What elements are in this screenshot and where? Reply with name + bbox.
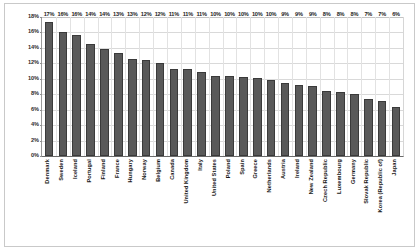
x-axis-label-slot: United Kingdom xyxy=(180,159,194,251)
bar-value-label: 9% xyxy=(295,12,303,18)
y-axis-tick-label: 16% xyxy=(7,30,39,36)
x-axis-label-slot: Greece xyxy=(249,159,263,251)
x-axis-label-slot: France xyxy=(110,159,124,251)
bar[interactable]: 17% xyxy=(45,22,54,156)
x-axis-category-label: Luxembourg xyxy=(337,159,343,194)
bar[interactable]: 11% xyxy=(183,69,192,156)
bar[interactable]: 7% xyxy=(364,99,373,156)
bar-value-label: 11% xyxy=(183,12,193,18)
bar[interactable]: 10% xyxy=(253,78,262,156)
bar-value-label: 10% xyxy=(266,12,277,18)
y-axis-tick-label: 14% xyxy=(7,45,39,51)
x-axis-category-label: New Zealand xyxy=(309,159,315,194)
bar[interactable]: 8% xyxy=(350,94,359,156)
bar[interactable]: 10% xyxy=(225,76,234,156)
bar-slot: 8% xyxy=(320,17,334,156)
bar[interactable]: 10% xyxy=(239,77,248,156)
bar[interactable]: 10% xyxy=(211,76,220,156)
x-axis-label-slot: Finland xyxy=(97,159,111,251)
bar-value-label: 9% xyxy=(309,12,317,18)
x-axis-label-slot: United States xyxy=(208,159,222,251)
x-axis-category-label: Slovak Republic xyxy=(364,159,370,204)
x-axis-label-slot: Sweden xyxy=(55,159,69,251)
bar-value-label: 16% xyxy=(58,12,69,18)
bar[interactable]: 16% xyxy=(72,35,81,156)
bar[interactable]: 14% xyxy=(100,49,109,156)
x-axis-category-label: Poland xyxy=(226,159,232,178)
bar-slot: 12% xyxy=(139,17,153,156)
chart-frame: 18%16%14%12%10%8%6%4%2%0% 17%16%16%14%14… xyxy=(4,3,415,247)
bar-value-label: 12% xyxy=(141,12,152,18)
x-axis-category-label: Denmark xyxy=(45,159,51,184)
x-axis-label-slot: Portugal xyxy=(83,159,97,251)
x-axis-label-slot: Belgium xyxy=(152,159,166,251)
bar-value-label: 16% xyxy=(71,12,82,18)
x-axis-category-label: France xyxy=(115,159,121,178)
bar-slot: 11% xyxy=(167,17,181,156)
x-axis-category-label: Spain xyxy=(240,159,246,175)
bar[interactable]: 9% xyxy=(281,83,290,156)
bar[interactable]: 16% xyxy=(59,32,68,156)
y-axis-tick-label: 18% xyxy=(7,14,39,20)
bar[interactable]: 13% xyxy=(128,59,137,156)
bar-slot: 6% xyxy=(389,17,403,156)
bar[interactable]: 12% xyxy=(156,63,165,156)
x-axis-label-slot: New Zealand xyxy=(305,159,319,251)
x-axis-category-label: Austria xyxy=(281,159,287,179)
bar-slot: 16% xyxy=(56,17,70,156)
bar-value-label: 10% xyxy=(210,12,221,18)
x-axis-category-label: Hungary xyxy=(128,159,134,182)
bar-value-label: 8% xyxy=(323,12,331,18)
bar-slot: 10% xyxy=(264,17,278,156)
x-axis-category-label: United States xyxy=(212,159,218,196)
bar[interactable]: 14% xyxy=(86,44,95,156)
bar-slot: 10% xyxy=(236,17,250,156)
x-axis-category-label: Czech Republic xyxy=(323,159,329,202)
x-axis-category-label: Norway xyxy=(142,159,148,180)
bar-value-label: 7% xyxy=(364,12,372,18)
bar[interactable]: 12% xyxy=(142,60,151,156)
bar-value-label: 12% xyxy=(155,12,166,18)
bar-slot: 16% xyxy=(70,17,84,156)
bar-slot: 8% xyxy=(347,17,361,156)
bar-slot: 10% xyxy=(223,17,237,156)
x-axis-category-label: United Kingdom xyxy=(184,159,190,204)
y-axis-tick-label: 0% xyxy=(7,153,39,159)
x-axis-label-slot: Iceland xyxy=(69,159,83,251)
x-axis-label-slot: Korea (Republic of) xyxy=(374,159,388,251)
x-axis-label-slot: Austria xyxy=(277,159,291,251)
bar[interactable]: 7% xyxy=(378,101,387,156)
bar-value-label: 9% xyxy=(281,12,289,18)
y-axis-tick-label: 6% xyxy=(7,107,39,113)
bar[interactable]: 11% xyxy=(197,72,206,156)
x-axis-category-label: Canada xyxy=(170,159,176,180)
x-axis-category-label: Ireland xyxy=(295,159,301,178)
bar[interactable]: 8% xyxy=(322,91,331,156)
bar[interactable]: 11% xyxy=(170,69,179,156)
bar-slot: 9% xyxy=(306,17,320,156)
bar-value-label: 14% xyxy=(99,12,110,18)
x-axis-category-label: Japan xyxy=(392,159,398,176)
bar[interactable]: 9% xyxy=(308,86,317,156)
x-axis-category-label: Iceland xyxy=(73,159,79,179)
bar-slot: 9% xyxy=(292,17,306,156)
x-axis-category-label: Germany xyxy=(351,159,357,184)
plot-area: 18%16%14%12%10%8%6%4%2%0% 17%16%16%14%14… xyxy=(41,17,404,157)
bar-value-label: 8% xyxy=(351,12,359,18)
bar[interactable]: 6% xyxy=(392,107,401,156)
x-axis-category-label: Netherlands xyxy=(267,159,273,192)
x-axis-label-slot: Italy xyxy=(194,159,208,251)
bar[interactable]: 8% xyxy=(336,92,345,156)
bar[interactable]: 9% xyxy=(295,85,304,156)
y-axis-tick-label: 12% xyxy=(7,61,39,67)
x-axis-category-label: Greece xyxy=(253,159,259,179)
bar[interactable]: 10% xyxy=(267,80,276,156)
bar-value-label: 10% xyxy=(252,12,263,18)
bar[interactable]: 13% xyxy=(114,53,123,156)
bar-slot: 14% xyxy=(98,17,112,156)
bar-value-label: 6% xyxy=(392,12,400,18)
x-axis-category-label: Finland xyxy=(101,159,107,180)
x-axis-label-slot: Canada xyxy=(166,159,180,251)
bar-value-label: 14% xyxy=(85,12,96,18)
x-axis-label-slot: Netherlands xyxy=(263,159,277,251)
